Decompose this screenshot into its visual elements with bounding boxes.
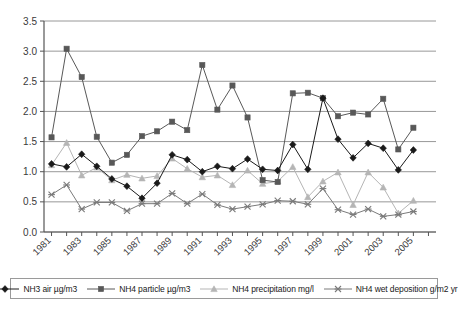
data-point-square [99,286,104,291]
data-point-diamond [229,165,235,172]
data-point-diamond [290,141,296,148]
legend-marker-square-icon [86,283,116,295]
data-point-square [366,112,371,117]
data-point-cross [48,192,55,198]
y-axis-tick-label: 1.0 [23,166,37,177]
data-point-cross [214,202,221,208]
data-point-cross [320,186,327,192]
data-point-square [230,83,235,88]
legend-label: NH3 air µg/m3 [23,284,77,294]
data-point-square [290,91,295,96]
data-point-square [185,128,190,133]
data-point-cross [350,212,357,218]
data-point-triangle [214,172,220,178]
series-line [52,49,414,182]
y-axis-tick-label: 3.0 [23,46,37,57]
data-point-square [305,90,310,95]
data-point-triangle [410,197,416,203]
data-point-cross [229,206,236,212]
legend-marker-diamond-icon [0,283,20,295]
legend-item-2: NH4 particle µg/m3 [86,283,190,295]
legend-item-3: NH4 precipitation mg/l [199,283,313,295]
x-axis-tick-label: 1981 [30,235,53,258]
y-axis-labels-group: 0.00.51.01.52.02.53.03.5 [23,16,37,238]
data-point-square [154,129,159,134]
x-axis-tick-label: 1997 [271,235,294,258]
data-point-square [275,179,280,184]
data-point-square [200,62,205,67]
x-axis-tick-label: 1983 [60,235,83,258]
series-3 [48,140,416,216]
data-point-triangle [63,140,69,146]
y-axis-tick-label: 1.5 [23,136,37,147]
data-point-square [260,178,265,183]
legend-marker-triangle-icon [199,283,229,295]
data-point-square [139,134,144,139]
legend-label: NH4 precipitation mg/l [232,284,313,294]
data-point-cross [78,206,85,212]
data-point-triangle [290,164,296,170]
y-axis-tick-label: 2.5 [23,76,37,87]
x-axis-tick-label: 1995 [241,235,264,258]
data-point-square [109,160,114,165]
data-point-triangle [350,202,356,208]
y-axis-tick-label: 0.5 [23,196,37,207]
data-point-cross [274,198,281,204]
data-point-cross [334,286,341,292]
x-axis-tick-label: 1999 [302,235,325,258]
data-point-square [79,74,84,79]
data-point-cross [93,199,100,205]
data-point-square [411,125,416,130]
x-axis-tick-label: 2003 [362,235,385,258]
series-2 [49,46,416,184]
x-axis-tick-label: 1993 [211,235,234,258]
x-axis-labels-group: 1981198319851987198919911993199519971999… [30,235,415,258]
data-point-square [396,147,401,152]
legend-label: NH4 wet deposition g/m2 yr [356,284,458,294]
data-point-triangle [184,166,190,172]
legend-item-4: NH4 wet deposition g/m2 yr [323,283,458,295]
y-axis-tick-label: 2.0 [23,106,37,117]
data-point-square [381,96,386,101]
series-line [52,185,414,216]
data-point-cross [380,213,387,219]
data-point-square [215,107,220,112]
x-axis-tick-label: 1989 [151,235,174,258]
data-point-cross [410,209,417,215]
x-axis-tick-label: 1985 [91,235,114,258]
data-point-square [170,119,175,124]
y-axis-tick-label: 0.0 [23,227,37,238]
y-axis-tick-label: 3.5 [23,16,37,27]
chart-plot-area: 0.00.51.01.52.02.53.03.5 198119831985198… [0,0,450,270]
data-point-cross [335,207,342,213]
line-chart: 0.00.51.01.52.02.53.03.5 198119831985198… [0,0,450,270]
data-point-triangle [124,172,130,178]
data-point-triangle [78,172,84,178]
data-point-square [245,115,250,120]
data-point-cross [63,182,70,188]
data-point-square [49,135,54,140]
data-point-triangle [244,167,250,173]
legend-item-1: NH3 air µg/m3 [0,283,77,295]
legend-marker-cross-icon [323,283,353,295]
data-series-group [48,46,417,219]
x-axis-tick-label: 1991 [181,235,204,258]
data-point-square [350,110,355,115]
data-point-diamond [169,151,175,158]
data-point-cross [365,206,372,212]
data-point-square [94,134,99,139]
data-point-cross [124,208,131,214]
data-point-cross [108,199,115,205]
data-point-cross [289,198,296,204]
data-point-diamond [2,285,8,292]
data-point-diamond [244,156,250,163]
data-point-square [335,114,340,119]
legend-label: NH4 particle µg/m3 [119,284,190,294]
gridlines-group [44,21,436,232]
chart-legend: NH3 air µg/m3NH4 particle µg/m3NH4 preci… [10,278,438,299]
x-axis-tick-label: 1987 [121,235,144,258]
x-axis-tick-label: 2005 [392,235,415,258]
data-point-cross [199,191,206,197]
data-point-cross [244,204,251,210]
